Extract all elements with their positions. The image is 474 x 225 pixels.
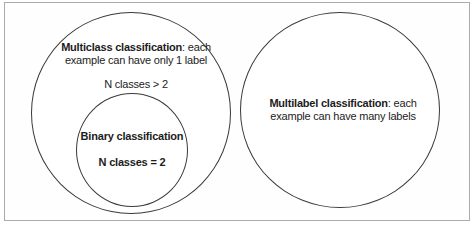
multiclass-title: Multiclass classification: each example …: [41, 41, 231, 67]
multilabel-title: Multilabel classification: each example …: [243, 97, 443, 123]
multiclass-title-rest: : each: [182, 41, 211, 53]
multilabel-title-bold: Multilabel classification: [269, 97, 387, 109]
multiclass-title-bold: Multiclass classification: [61, 41, 182, 53]
multiclass-title-line2: example can have only 1 label: [41, 54, 231, 67]
multilabel-title-rest: : each: [388, 97, 417, 109]
classification-venn-diagram: Multiclass classification: each example …: [0, 0, 474, 225]
multilabel-title-line2: example can have many labels: [243, 110, 443, 123]
multiclass-annotation: N classes > 2: [41, 78, 231, 91]
binary-circle: [76, 93, 188, 207]
binary-annotation: N classes = 2: [74, 156, 190, 169]
binary-title: Binary classification: [74, 130, 190, 143]
